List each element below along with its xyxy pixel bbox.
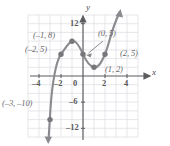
x-axis-label: x	[152, 67, 156, 77]
y-tick-12: 12	[70, 18, 79, 28]
point-0-5	[80, 52, 85, 57]
graph-figure: x y –4 –2 0 2 4 12 –6 –12 (–1, 8) (–2, 5…	[0, 0, 170, 146]
annotation-neg2-5: (–2, 5)	[25, 44, 47, 54]
point-neg2-5	[58, 52, 63, 57]
y-axis-label: y	[86, 2, 90, 12]
x-tick-4: 4	[124, 78, 128, 88]
annotation-neg3-neg10: (–3, –10)	[2, 98, 32, 108]
curve-arrow-lower	[45, 137, 52, 145]
x-tick-neg4: –4	[32, 78, 41, 88]
x-tick-0: 0	[73, 78, 77, 88]
annotation-2-5: (2, 5)	[120, 48, 138, 58]
point-neg1-8	[69, 39, 74, 44]
x-axis-arrow	[144, 73, 150, 79]
annotation-1-2: (1, 2)	[105, 64, 123, 74]
leader-line-0-5	[86, 41, 103, 57]
x-tick-neg2: –2	[54, 78, 63, 88]
point-neg3-neg10	[47, 117, 52, 122]
annotation-neg1-8: (–1, 8)	[33, 30, 55, 40]
curve-arrow-upper	[116, 9, 123, 17]
annotation-0-5: (0, 5)	[98, 28, 116, 38]
point-2-5	[102, 52, 107, 57]
point-1-2	[91, 65, 96, 70]
coordinate-plane	[0, 0, 170, 146]
y-tick-neg12: –12	[66, 122, 79, 132]
y-tick-neg6: –6	[69, 96, 78, 106]
y-axis-arrow	[80, 16, 86, 22]
x-tick-2: 2	[102, 78, 106, 88]
